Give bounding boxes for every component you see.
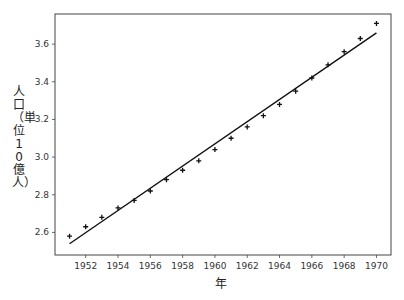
data-point-marker (67, 234, 72, 239)
population-chart: 1952195419561958196019621964196619681970… (0, 0, 404, 300)
x-tick-label: 1964 (268, 261, 291, 271)
x-tick-label: 1970 (365, 261, 388, 271)
x-tick-label: 1952 (74, 261, 97, 271)
y-tick-label: 2.6 (35, 227, 50, 237)
x-tick-label: 1960 (203, 261, 226, 271)
data-point-marker (374, 21, 379, 26)
x-tick-label: 1966 (300, 261, 323, 271)
x-tick-label: 1954 (107, 261, 130, 271)
data-point-marker (83, 224, 88, 229)
x-axis-label: 年 (215, 274, 227, 291)
data-point-marker (245, 124, 250, 129)
x-tick-label: 1956 (139, 261, 162, 271)
y-tick-label: 3.0 (35, 152, 50, 162)
data-point-marker (196, 158, 201, 163)
data-point-marker (212, 147, 217, 152)
x-tick-label: 1962 (236, 261, 259, 271)
y-tick-label: 3.4 (35, 77, 50, 87)
data-point-marker (358, 36, 363, 41)
data-point-marker (180, 168, 185, 173)
data-point-marker (99, 215, 104, 220)
y-tick-label: 3.6 (35, 39, 50, 49)
y-axis-label: 人口（単位10億人） (12, 86, 26, 190)
x-tick-label: 1958 (171, 261, 194, 271)
y-tick-label: 3.2 (35, 114, 49, 124)
data-point-marker (229, 136, 234, 141)
data-point-marker (277, 102, 282, 107)
y-tick-label: 2.8 (35, 190, 50, 200)
data-point-marker (261, 113, 266, 118)
x-tick-label: 1968 (333, 261, 356, 271)
